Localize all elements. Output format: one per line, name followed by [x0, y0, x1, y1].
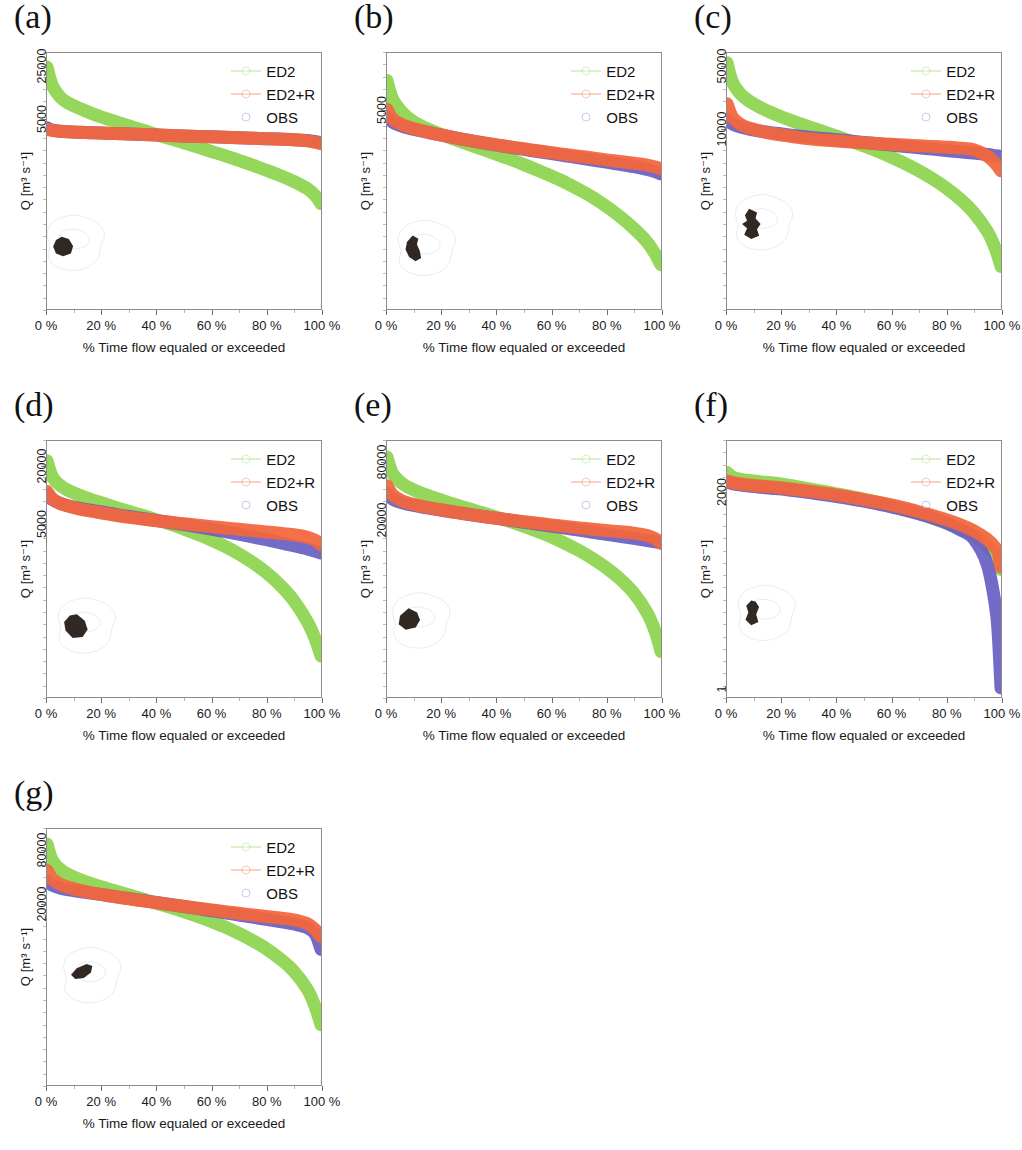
plot-area-a: Q [m³ s⁻¹]250005000ED2ED2+ROBS0 %20 %40 … [46, 52, 322, 310]
legend-marker-icon [231, 88, 261, 100]
x-tick-label-5: 100 % [304, 706, 341, 721]
x-minor-tick [74, 1086, 75, 1089]
x-tick-label-0: 0 % [35, 1094, 57, 1109]
x-tick-label-1: 20 % [86, 706, 116, 721]
panel-d: (d)Q [m³ s⁻¹]200005000ED2ED2+ROBS0 %20 %… [0, 388, 340, 778]
x-minor-tick [469, 310, 470, 313]
x-axis-label-f: % Time flow equaled or exceeded [726, 728, 1002, 743]
panel-a: (a)Q [m³ s⁻¹]250005000ED2ED2+ROBS0 %20 %… [0, 0, 340, 390]
x-axis-label-c: % Time flow equaled or exceeded [726, 340, 1002, 355]
x-tick-label-3: 60 % [197, 706, 227, 721]
legend-b: ED2ED2+ROBS [571, 61, 655, 127]
x-tick-label-2: 40 % [482, 706, 512, 721]
legend-g: ED2ED2+ROBS [231, 837, 315, 903]
x-tick-label-3: 60 % [877, 318, 907, 333]
x-tick-label-4: 80 % [252, 1094, 282, 1109]
x-tick-mark [496, 310, 497, 315]
x-minor-tick [634, 698, 635, 701]
x-minor-tick [239, 1086, 240, 1089]
legend-marker-icon [571, 65, 601, 77]
x-minor-tick [974, 698, 975, 701]
x-tick-label-2: 40 % [142, 318, 172, 333]
x-tick-mark [726, 310, 727, 315]
x-tick-label-4: 80 % [932, 318, 962, 333]
legend-marker-icon [911, 88, 941, 100]
x-axis-label-a: % Time flow equaled or exceeded [46, 340, 322, 355]
legend-entry-ed2: ED2 [911, 449, 995, 469]
x-minor-tick [919, 310, 920, 313]
x-tick-mark [947, 310, 948, 315]
figure-flow-duration-curves: (a)Q [m³ s⁻¹]250005000ED2ED2+ROBS0 %20 %… [0, 0, 1022, 1150]
x-tick-mark [607, 698, 608, 703]
x-tick-mark [726, 698, 727, 703]
legend-label: ED2 [606, 451, 635, 468]
x-axis-label-e: % Time flow equaled or exceeded [386, 728, 662, 743]
legend-marker-icon [231, 887, 261, 899]
y-axis-label-d: Q [m³ s⁻¹] [16, 440, 34, 698]
x-tick-mark [46, 1086, 47, 1091]
x-tick-mark [662, 698, 663, 703]
x-minor-tick [754, 310, 755, 313]
x-minor-tick [634, 310, 635, 313]
inset-map-d [58, 598, 115, 653]
x-axis-b: 0 %20 %40 %60 %80 %100 % [386, 310, 662, 344]
plot-box-c: ED2ED2+ROBS [726, 52, 1002, 310]
x-tick-label-5: 100 % [644, 318, 681, 333]
panel-e: (e)Q [m³ s⁻¹]8000020000ED2ED2+ROBS0 %20 … [340, 388, 680, 778]
x-axis-d: 0 %20 %40 %60 %80 %100 % [46, 698, 322, 732]
x-minor-tick [864, 310, 865, 313]
x-minor-tick [524, 310, 525, 313]
x-tick-mark [322, 310, 323, 315]
x-minor-tick [239, 698, 240, 701]
legend-entry-ed2-plus-r: ED2+R [571, 472, 655, 492]
legend-entry-obs: OBS [571, 495, 655, 515]
x-tick-mark [212, 698, 213, 703]
legend-marker-icon [231, 111, 261, 123]
legend-marker-icon [231, 499, 261, 511]
x-tick-mark [212, 310, 213, 315]
x-tick-mark [662, 310, 663, 315]
legend-label: ED2 [946, 451, 975, 468]
x-tick-label-3: 60 % [537, 318, 567, 333]
x-tick-label-3: 60 % [877, 706, 907, 721]
legend-e: ED2ED2+ROBS [571, 449, 655, 515]
y-axis-label-g: Q [m³ s⁻¹] [16, 828, 34, 1086]
x-tick-mark [552, 698, 553, 703]
x-tick-label-1: 20 % [426, 318, 456, 333]
legend-label: OBS [606, 109, 638, 126]
legend-marker-icon [231, 841, 261, 853]
legend-entry-ed2: ED2 [231, 449, 315, 469]
x-minor-tick [919, 698, 920, 701]
legend-marker-icon [571, 88, 601, 100]
legend-a: ED2ED2+ROBS [231, 61, 315, 127]
plot-box-g: ED2ED2+ROBS [46, 828, 322, 1086]
legend-entry-ed2: ED2 [231, 61, 315, 81]
legend-label: OBS [266, 885, 298, 902]
panel-label-c: (c) [694, 0, 732, 34]
x-minor-tick [974, 310, 975, 313]
x-tick-label-0: 0 % [35, 706, 57, 721]
x-minor-tick [74, 698, 75, 701]
x-tick-mark [267, 698, 268, 703]
inset-map-a [47, 215, 104, 270]
x-tick-mark [836, 698, 837, 703]
x-tick-label-2: 40 % [142, 1094, 172, 1109]
legend-entry-ed2-plus-r: ED2+R [911, 84, 995, 104]
x-minor-tick [184, 1086, 185, 1089]
x-tick-label-5: 100 % [644, 706, 681, 721]
panel-f: (f)Q [m³ s⁻¹]20001ED2ED2+ROBS0 %20 %40 %… [680, 388, 1020, 778]
legend-label: ED2+R [946, 474, 995, 491]
x-tick-label-2: 40 % [822, 706, 852, 721]
x-tick-label-3: 60 % [537, 706, 567, 721]
plot-box-a: ED2ED2+ROBS [46, 52, 322, 310]
legend-entry-obs: OBS [231, 883, 315, 903]
x-tick-mark [1002, 310, 1003, 315]
panel-label-a: (a) [14, 0, 52, 34]
x-tick-mark [441, 310, 442, 315]
legend-label: OBS [946, 109, 978, 126]
y-axis-label-e: Q [m³ s⁻¹] [356, 440, 374, 698]
legend-entry-ed2-plus-r: ED2+R [231, 472, 315, 492]
legend-entry-obs: OBS [911, 495, 995, 515]
x-minor-tick [809, 310, 810, 313]
x-tick-label-5: 100 % [304, 318, 341, 333]
